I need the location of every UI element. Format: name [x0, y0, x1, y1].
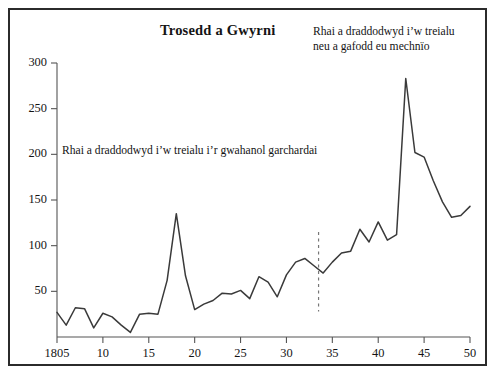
axis-group [57, 63, 470, 337]
y-tick-label: 150 [17, 192, 47, 207]
x-tick-label: 30 [266, 346, 306, 361]
y-tick-marks [51, 63, 57, 291]
y-tick-label: 200 [17, 146, 47, 161]
y-tick-label: 50 [17, 283, 47, 298]
x-tick-label: 15 [129, 346, 169, 361]
chart-figure: Trosedd a Gwyrni Rhai a draddodwyd i’w t… [0, 0, 500, 375]
x-tick-label: 20 [175, 346, 215, 361]
y-tick-label: 300 [17, 55, 47, 70]
y-tick-label: 100 [17, 238, 47, 253]
x-tick-label: 50 [450, 346, 490, 361]
x-tick-label: 40 [358, 346, 398, 361]
x-tick-label: 45 [404, 346, 444, 361]
x-tick-label: 10 [83, 346, 123, 361]
x-tick-label: 25 [221, 346, 261, 361]
x-tick-label: 35 [312, 346, 352, 361]
chart-plot [0, 0, 500, 375]
crime-data-line [57, 79, 470, 333]
y-tick-label: 250 [17, 101, 47, 116]
x-tick-marks [57, 337, 470, 343]
x-tick-label: 1805 [37, 346, 77, 361]
